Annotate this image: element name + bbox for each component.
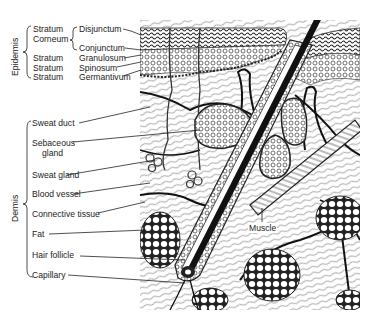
epidermis-bracket [23, 26, 31, 78]
blood-vessel-label: Blood vessel [32, 189, 81, 199]
connective-tissue-label: Connective tissue [32, 209, 100, 219]
dermis-label: Dermis [10, 195, 20, 222]
corneum-bracket [70, 27, 77, 50]
germantivum-label: Germantivum [79, 72, 131, 82]
stratum-label-1: Stratum [33, 24, 63, 34]
stratum-label-2: Stratum [33, 53, 63, 63]
stratum-label-4: Stratum [33, 72, 63, 82]
corneum-label: Corneum [33, 34, 68, 44]
sebaceous-gland-label-2: gland [42, 148, 63, 158]
epidermis-label: Epidermis [10, 38, 20, 76]
conjunctum-label: Conjunctum [79, 43, 125, 53]
fat-label: Fat [32, 229, 44, 239]
granulosum-label: Granulosum [79, 53, 126, 63]
capillary-label: Capillary [32, 270, 65, 280]
sebaceous-gland-label-1: Sebaceous [32, 138, 75, 148]
hair-follicle-label: Hair follicle [32, 250, 74, 260]
muscle-label: Muscle [248, 223, 277, 233]
sweat-gland-label: Sweat gland [32, 170, 79, 180]
sweat-duct-label: Sweat duct [32, 118, 75, 128]
skin-cross-section [140, 8, 364, 315]
disjunctum-label: Disjunctum [79, 24, 122, 34]
